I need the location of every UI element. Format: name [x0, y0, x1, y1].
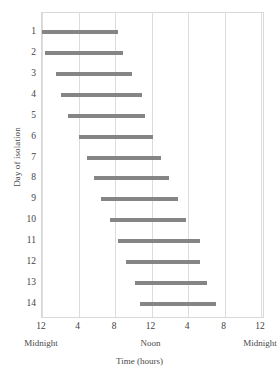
- sleep-bar-day-7: [87, 156, 161, 160]
- sleep-bar-day-10: [110, 218, 187, 222]
- gridline-4h: [79, 13, 80, 317]
- x-period-label-24h: Midnight: [220, 337, 279, 349]
- y-tick-label-8: 8: [0, 172, 36, 182]
- sleep-bar-day-5: [68, 114, 145, 118]
- plot-area: [41, 12, 264, 318]
- x-tick-label-0h: 12: [26, 320, 56, 332]
- sleep-bar-day-3: [56, 72, 133, 76]
- x-period-label-0h: Midnight: [1, 337, 81, 349]
- x-tick-label-8h: 8: [99, 320, 129, 332]
- y-tick-label-14: 14: [0, 298, 36, 308]
- sleep-bar-day-13: [135, 281, 207, 285]
- y-tick-label-11: 11: [0, 235, 36, 245]
- sleep-bar-day-1: [42, 30, 118, 34]
- gridline-20h: [225, 13, 226, 317]
- x-tick-label-16h: 4: [172, 320, 202, 332]
- y-tick-label-12: 12: [0, 256, 36, 266]
- x-tick-label-24h: 12: [245, 320, 275, 332]
- sleep-bar-day-12: [126, 260, 200, 264]
- gridline-24h: [261, 13, 262, 317]
- sleep-bar-day-4: [61, 93, 141, 97]
- x-axis-title: Time (hours): [0, 356, 279, 366]
- y-tick-label-7: 7: [0, 152, 36, 162]
- y-tick-label-5: 5: [0, 110, 36, 120]
- y-tick-label-3: 3: [0, 68, 36, 78]
- x-axis-tick-labels: 1248124812: [0, 320, 279, 334]
- sleep-bar-day-11: [118, 239, 200, 243]
- sleep-bar-day-2: [45, 51, 124, 55]
- y-tick-label-9: 9: [0, 193, 36, 203]
- x-axis-period-labels: MidnightNoonMidnight: [0, 337, 279, 351]
- sleep-bar-day-8: [94, 176, 169, 180]
- x-tick-label-20h: 8: [209, 320, 239, 332]
- x-tick-label-12h: 12: [136, 320, 166, 332]
- x-period-label-12h: Noon: [111, 337, 191, 349]
- sleep-isolation-chart: Day of isolation 1234567891011121314 124…: [0, 0, 279, 377]
- sleep-bar-day-6: [79, 135, 153, 139]
- gridline-12h: [152, 13, 153, 317]
- y-tick-label-6: 6: [0, 131, 36, 141]
- y-tick-label-2: 2: [0, 47, 36, 57]
- gridline-16h: [188, 13, 189, 317]
- gridline-8h: [115, 13, 116, 317]
- sleep-bar-day-14: [140, 302, 217, 306]
- y-tick-label-1: 1: [0, 26, 36, 36]
- gridline-0h: [42, 13, 43, 317]
- y-tick-label-4: 4: [0, 89, 36, 99]
- y-tick-label-10: 10: [0, 214, 36, 224]
- x-tick-label-4h: 4: [63, 320, 93, 332]
- y-tick-label-13: 13: [0, 277, 36, 287]
- sleep-bar-day-9: [101, 197, 178, 201]
